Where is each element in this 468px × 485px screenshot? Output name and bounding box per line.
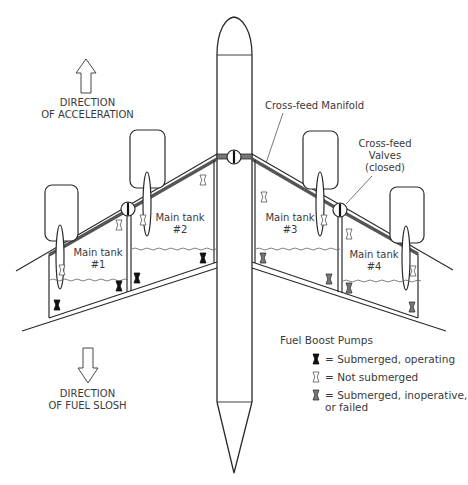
tank-2-label-line1: Main tank — [152, 212, 208, 224]
tank-1-label-line1: Main tank — [70, 247, 126, 259]
tank-1-label: Main tank #1 — [70, 247, 126, 271]
tank-4-label: Main tank #4 — [346, 249, 402, 273]
tank-4-label-line1: Main tank — [346, 249, 402, 261]
slosh-label: DIRECTION OF FUEL SLOSH — [45, 388, 130, 412]
pump-inoperative-icon — [346, 283, 352, 293]
acceleration-label-line1: DIRECTION — [40, 97, 135, 109]
tank-2-label: Main tank #2 — [152, 212, 208, 236]
legend-title: Fuel Boost Pumps — [280, 334, 373, 346]
center-crossfeed-valve-icon — [227, 150, 241, 164]
acceleration-label-line2: OF ACCELERATION — [40, 109, 135, 121]
valves-leader — [346, 176, 372, 204]
pump-inoperative-icon — [260, 253, 266, 263]
pump-inoperative-icon — [409, 302, 415, 312]
tank-2-label-line2: #2 — [152, 224, 208, 236]
pump-inoperative-icon — [326, 274, 332, 284]
pump-not-submerged-icon — [200, 175, 206, 185]
valves-callout-line2: Valves — [350, 150, 420, 162]
valves-callout-line3: (closed) — [350, 162, 420, 174]
legend-label-inoperative-line2: or failed — [325, 401, 467, 413]
tank-1-label-line2: #1 — [70, 259, 126, 271]
valves-callout: Cross-feed Valves (closed) — [350, 138, 420, 174]
pump-not-submerged-icon — [311, 371, 321, 383]
pump-submerged-operating-icon — [200, 253, 206, 263]
right-crossfeed-valve-icon — [333, 203, 347, 217]
pump-submerged-operating-icon — [311, 353, 321, 365]
slosh-label-line2: OF FUEL SLOSH — [45, 400, 130, 412]
right-wing — [252, 154, 453, 331]
manifold-callout: Cross-feed Manifold — [265, 100, 364, 112]
legend-label-operating: = Submerged, operating — [325, 353, 455, 365]
tank-4-label-line2: #4 — [346, 261, 402, 273]
pump-inoperative-icon — [311, 389, 321, 401]
pump-submerged-operating-icon — [134, 273, 140, 283]
acceleration-label: DIRECTION OF ACCELERATION — [40, 97, 135, 121]
legend-item-inoperative: = Submerged, inoperative, or failed — [311, 389, 467, 413]
left-wing — [16, 154, 217, 331]
pump-not-submerged-icon — [346, 229, 352, 239]
left-crossfeed-valve-icon — [121, 202, 135, 216]
tank-3-label: Main tank #3 — [262, 212, 318, 236]
manifold-leader — [266, 113, 283, 163]
pump-not-submerged-icon — [261, 192, 267, 202]
center-crossfeed — [217, 150, 252, 164]
legend-item-operating: = Submerged, operating — [311, 353, 455, 365]
fuselage — [217, 12, 252, 473]
pump-not-submerged-icon — [410, 266, 416, 276]
down-arrow-icon — [78, 348, 98, 383]
legend-item-not-submerged: = Not submerged — [311, 371, 418, 383]
valves-callout-line1: Cross-feed — [350, 138, 420, 150]
pump-submerged-operating-icon — [116, 281, 122, 291]
tank-3-label-line1: Main tank — [262, 212, 318, 224]
slosh-label-line1: DIRECTION — [45, 388, 130, 400]
engine-2-pylon — [143, 172, 151, 236]
pump-submerged-operating-icon — [54, 300, 60, 310]
up-arrow-icon — [76, 59, 96, 93]
pump-not-submerged-icon — [116, 220, 122, 230]
tank-3-label-line2: #3 — [262, 224, 318, 236]
legend-label-inoperative: = Submerged, inoperative, — [325, 389, 467, 401]
legend-label-not-submerged: = Not submerged — [325, 371, 418, 383]
